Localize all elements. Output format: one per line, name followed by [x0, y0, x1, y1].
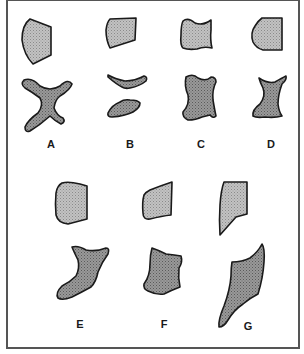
shape-f-top — [143, 182, 172, 219]
shape-b-top — [106, 18, 136, 48]
shape-f-bottom — [144, 248, 182, 294]
panel-label-b: B — [126, 138, 134, 150]
shapes-canvas — [0, 0, 304, 354]
panel-label-d: D — [267, 138, 275, 150]
panel-label-c: C — [197, 138, 205, 150]
shape-c-bottom — [183, 75, 216, 120]
shape-d-top — [252, 18, 282, 50]
panel-label-a: A — [47, 138, 55, 150]
shape-g-top — [220, 182, 248, 235]
panel-d — [252, 18, 286, 117]
panel-label-g: G — [244, 320, 253, 332]
shape-e-bottom — [57, 246, 109, 299]
shape-b-bottom-lower — [108, 100, 140, 117]
panel-label-f: F — [161, 318, 168, 330]
shape-a-top — [22, 19, 51, 64]
shape-c-top — [181, 19, 212, 49]
shape-g-bottom — [219, 244, 264, 327]
panel-g — [219, 182, 264, 327]
shape-b-bottom-upper — [108, 75, 147, 88]
panel-label-e: E — [76, 318, 83, 330]
shape-e-top — [56, 182, 88, 224]
panel-e — [56, 182, 109, 299]
shape-a-bottom — [22, 79, 72, 131]
panel-a — [22, 19, 72, 132]
panel-c — [181, 19, 216, 120]
shape-d-bottom — [253, 76, 286, 117]
panel-f — [143, 182, 182, 294]
panel-b — [106, 18, 147, 117]
